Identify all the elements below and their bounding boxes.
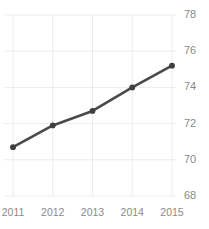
data-point-2011 — [10, 144, 16, 150]
y-tick-label-76: 76 — [184, 44, 196, 56]
y-tick-label-78: 78 — [184, 8, 196, 20]
data-point-2015 — [169, 63, 175, 69]
y-tick-label-72: 72 — [184, 117, 196, 129]
horizontal-gridlines — [4, 15, 176, 196]
data-point-2013 — [90, 108, 96, 114]
data-point-2014 — [129, 85, 135, 91]
x-tick-label-2011: 2011 — [0, 206, 33, 218]
y-tick-label-74: 74 — [184, 80, 196, 92]
vertical-gridlines — [13, 15, 172, 196]
y-tick-label-68: 68 — [184, 189, 196, 201]
line-chart: Freedom Trend 687072747678 2011201220132… — [0, 0, 209, 229]
x-tick-label-2015: 2015 — [152, 206, 192, 218]
x-tick-label-2014: 2014 — [112, 206, 152, 218]
y-tick-label-70: 70 — [184, 153, 196, 165]
plot-area — [0, 0, 209, 229]
x-tick-label-2013: 2013 — [73, 206, 113, 218]
data-point-2012 — [50, 123, 56, 129]
x-tick-label-2012: 2012 — [33, 206, 73, 218]
